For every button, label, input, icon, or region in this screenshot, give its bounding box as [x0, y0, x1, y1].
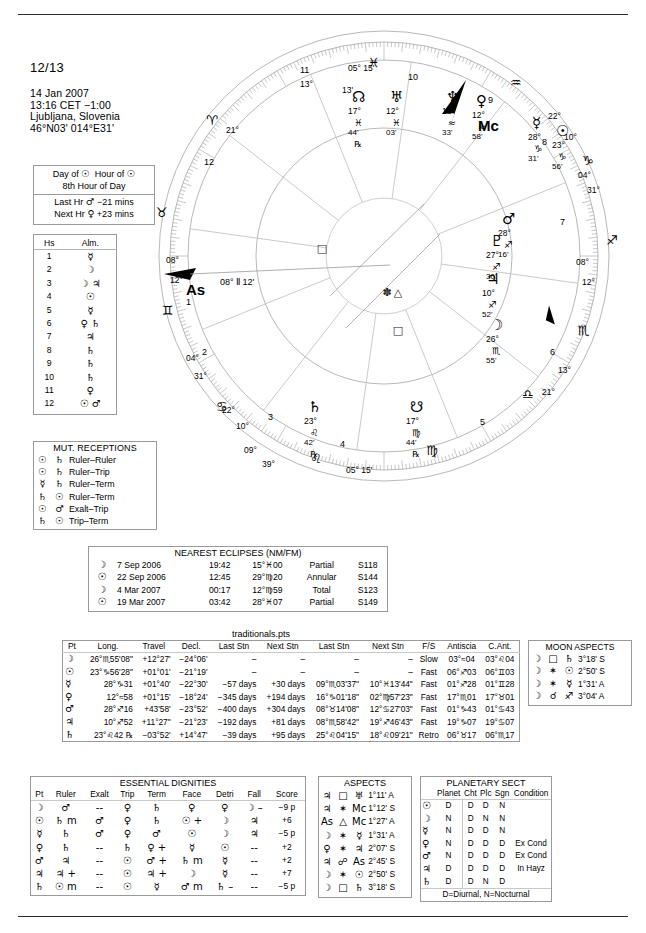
planet-icon: ♅: [351, 789, 367, 802]
house-almuten-table: Hs Alm. 1☿2☽3☽ ♃4☉5☿6♀ ♄7♃8♄9♄10♄11♀12☉ …: [33, 234, 117, 415]
chart-header: 12/13 14 Jan 2007 13:16 CET −1:00 Ljublj…: [30, 60, 120, 134]
planet-icon: ☉: [31, 814, 48, 827]
aspect-icon: ✶: [335, 868, 351, 881]
planet-icon: ☉: [63, 666, 82, 679]
table-row: 3☽ ♃: [34, 277, 116, 290]
nearest-eclipses-box: NEAREST ECLIPSES (NM/FM) ☽7 Sep 200619:4…: [88, 546, 388, 612]
table-row: 5☿: [34, 304, 116, 317]
cusp-12-degrees: 08°: [166, 256, 179, 265]
planet-minute-1: 03': [386, 129, 396, 137]
planet-degree-4: 28°: [528, 133, 541, 142]
planet-icon: ☽: [421, 813, 435, 826]
planet-icon: ☿: [63, 678, 82, 691]
orb-value: 1°27' A: [367, 815, 411, 828]
planet-sign-3: ≈: [478, 122, 486, 132]
divider: [34, 194, 154, 195]
planet-icon: ☿: [351, 829, 367, 842]
chart-coords: 46°N03' 014°E31': [30, 123, 120, 135]
almuten-symbol: ♀: [65, 384, 116, 397]
almuten-symbol: ♄: [65, 371, 116, 384]
planet-icon: ♄: [421, 876, 435, 889]
planet-sign-2: ≈: [448, 118, 456, 128]
column-header: Pt: [31, 789, 48, 801]
planet-icon: ♄: [31, 880, 48, 893]
table-row: ♀NDDDEx Cond: [421, 838, 551, 851]
house-number-2: 2: [202, 348, 207, 357]
cusp-1-min: 31°: [194, 372, 207, 381]
table-row: ♃DDDDIn Hayz: [421, 863, 551, 876]
essential-dignities-box: ESSENTIAL DIGNITIES PtRulerExaltTripTerm…: [30, 776, 306, 896]
aspect-icon: ☍: [335, 855, 351, 868]
column-header: Last Stn: [210, 641, 259, 653]
planetary-sect-box: PLANETARY SECT PlanetChtPlcSgnCondition …: [420, 776, 552, 902]
list-item: ☽✶☉2°50' S: [529, 665, 631, 677]
sect-footnote: D=Diurnal, N=Nocturnal: [421, 888, 551, 899]
planet-minute-10: 42': [304, 439, 314, 447]
aspect-icon: ✶: [335, 802, 351, 815]
orb-value: 3°18' S: [577, 653, 631, 665]
day-of-label: Day of: [53, 169, 79, 179]
cusp-11-min: 13°: [300, 80, 313, 89]
planet-icon: ♄: [63, 729, 82, 742]
mutual-receptions-box: MUT. RECEPTIONS ☉♄Ruler–Ruler☉♄Ruler–Tri…: [33, 441, 157, 530]
bottom-rule: [18, 916, 628, 917]
table-row: ☉19 Mar 200703:4228°♓07PartialS149: [89, 596, 387, 608]
column-header: Next Stn: [361, 641, 415, 653]
column-header: Antiscia: [443, 641, 481, 653]
ascendant-degrees: 08° Ⅱ 12': [220, 278, 254, 287]
eclipses-title: NEAREST ECLIPSES (NM/FM): [89, 548, 387, 558]
planet-icon: ♄: [351, 881, 367, 894]
table-row: ♃♃ +--☉♃ +☽☿--+7: [31, 867, 305, 880]
aspects-box: ASPECTS ♃□♅1°11' A♃✶Mc1°12' SAs△Mc1°27' …: [318, 776, 412, 898]
zodiac-sign-icon: ♑: [582, 154, 594, 167]
list-item: As△Mc1°27' A: [319, 815, 411, 828]
cusp-7-min: 12°: [582, 278, 595, 287]
almuten-symbol: ♃: [65, 330, 116, 343]
list-item: ☿♄Ruler–Term: [34, 478, 156, 490]
column-header: Last Stn: [307, 641, 361, 653]
zodiac-sign-icon: ♊: [162, 304, 174, 317]
house-number-9: 9: [488, 96, 493, 105]
planet-sign-1: ♓: [392, 118, 401, 128]
last-hour-value: −21 mins: [97, 197, 134, 207]
retrograde-icon-11: ℞: [412, 450, 420, 459]
table-row: 11♀: [34, 384, 116, 397]
planet-icon: ♃: [421, 863, 435, 876]
cusp-4-degrees: 05° 15': [346, 466, 372, 475]
planet-icon: ☉: [351, 868, 367, 881]
luminary-icon: ☽: [89, 584, 115, 596]
cusp-9-degrees: 22°: [548, 112, 561, 121]
planet-degree-9: 26°: [486, 335, 499, 344]
table-row: ♄DDND: [421, 876, 551, 889]
planet-minute-9: 55': [486, 357, 496, 365]
zodiac-sign-icon: ♐: [606, 234, 618, 247]
list-item: ♃☍As2°45' S: [319, 855, 411, 868]
cusp-3-min: 39°: [262, 460, 275, 469]
table-row: 8♄: [34, 344, 116, 357]
zodiac-sign-icon: ♍: [426, 444, 438, 457]
last-hour-label: Last Hr: [54, 197, 83, 207]
traditionals-table: PtLong.TravelDecl.Last StnNext StnLast S…: [62, 640, 520, 742]
planet-minute-0: 44': [348, 129, 358, 137]
planet-degree-3: 12°: [472, 111, 485, 120]
table-row: ☿28°♑31+01°40'−22°30'−57 days+30 days09°…: [63, 678, 520, 691]
table-row: 4☉: [34, 290, 116, 303]
planet-icon: ☉: [51, 515, 68, 527]
column-header: Planet: [435, 789, 462, 800]
orb-value: 1°12' S: [367, 802, 411, 815]
cusp-8-degrees: 04°: [578, 171, 591, 180]
sun-icon: ☉: [81, 168, 90, 179]
reception-type: Exalt–Trip: [68, 503, 156, 515]
almuten-symbol: ♄: [65, 357, 116, 370]
planet-glyph-4: ☿: [532, 116, 541, 131]
planet-icon: ☿: [421, 825, 435, 838]
moon-aspects-title: MOON ASPECTS: [529, 642, 631, 652]
retrograde-icon-0: ℞: [354, 140, 362, 149]
planet-icon: ♄: [51, 466, 68, 478]
planet-glyph-10: ♄: [308, 400, 321, 415]
moon-aspects-box: MOON ASPECTS ☽□♄3°18' S☽✶☉2°50' S☽✶☿1°31…: [528, 640, 632, 706]
house-number-11: 11: [300, 66, 309, 75]
column-header: Pt: [63, 641, 82, 653]
orb-value: 1°11' A: [367, 789, 411, 802]
reception-type: Trip–Term: [68, 515, 156, 527]
